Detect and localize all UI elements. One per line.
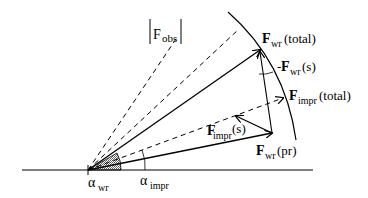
alpha-wr-label: α wr [88, 175, 109, 193]
svg-text:α: α [88, 175, 96, 190]
svg-text:F: F [281, 59, 290, 74]
alpha-impr-label: α impr [140, 173, 170, 191]
f-wr-pr-label: F wr (pr) [256, 143, 297, 161]
f-impr-total-label: F impr (total) [289, 88, 351, 106]
angle-arc-wr-s [259, 72, 273, 74]
svg-text:wr: wr [265, 150, 276, 161]
svg-text:(total): (total) [319, 88, 351, 103]
f-impr-total-vector [88, 98, 283, 170]
structure-factor-vector-diagram: F obs F wr (total) - F wr (s) F impr (to… [0, 0, 368, 198]
svg-text:impr: impr [213, 130, 233, 141]
svg-text:(total): (total) [284, 31, 316, 46]
neg-f-wr-s-label: - F wr (s) [277, 59, 316, 77]
alpha-wr-wedge [88, 153, 121, 170]
svg-text:F: F [256, 143, 265, 158]
f-wr-total-label: F wr (total) [262, 31, 316, 49]
svg-text:wr: wr [98, 182, 109, 193]
svg-text:(s): (s) [302, 59, 316, 74]
svg-text:F: F [289, 88, 298, 103]
alpha-impr-arc [142, 150, 145, 170]
svg-text:wr: wr [271, 38, 282, 49]
f-obs-arc-dashed-line [88, 30, 238, 170]
svg-text:impr: impr [150, 180, 170, 191]
svg-text:obs: obs [162, 32, 177, 44]
svg-text:wr: wr [290, 66, 301, 77]
f-obs-dashed-line [88, 36, 178, 170]
f-wr-total-vector [88, 50, 260, 170]
svg-text:(s): (s) [232, 121, 246, 136]
svg-text:F: F [262, 31, 271, 46]
f-obs-label: F obs [150, 19, 181, 44]
svg-text:α: α [140, 173, 148, 188]
svg-text:(pr): (pr) [277, 143, 297, 158]
svg-text:impr: impr [298, 95, 318, 106]
svg-text:F: F [153, 27, 161, 42]
f-impr-s-label: F impr (s) [207, 121, 246, 141]
